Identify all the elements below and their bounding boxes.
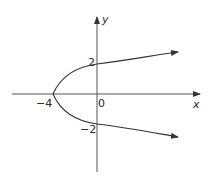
- y-tick-neg2: −2: [80, 123, 96, 136]
- y-axis-label: y: [101, 13, 109, 26]
- x-tick-neg4: −4: [36, 97, 52, 110]
- y-tick-2: 2: [88, 56, 95, 69]
- curve-upper-branch: [53, 52, 178, 94]
- origin-label: 0: [98, 97, 105, 110]
- x-axis-label: x: [192, 98, 200, 111]
- curve-lower-branch: [53, 94, 178, 137]
- parabola-graph: y x 0 −4 2 −2: [0, 0, 213, 179]
